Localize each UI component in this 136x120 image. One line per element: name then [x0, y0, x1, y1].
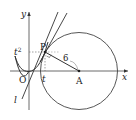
point-a-label: A	[75, 76, 83, 86]
diagram-canvas: y x O t2 P t A 6 l	[0, 0, 136, 120]
radius-label: 6	[63, 53, 68, 63]
y-axis-label: y	[20, 9, 27, 19]
origin-label: O	[19, 75, 26, 85]
point-p-label: P	[40, 42, 46, 52]
segment-pa	[45, 52, 79, 71]
t-squared-label: t2	[14, 46, 22, 58]
t-label: t	[42, 74, 46, 84]
tangent-line-l	[22, 12, 58, 99]
line-l-label: l	[14, 95, 17, 105]
x-axis-label: x	[122, 72, 127, 82]
point-a	[78, 70, 81, 73]
